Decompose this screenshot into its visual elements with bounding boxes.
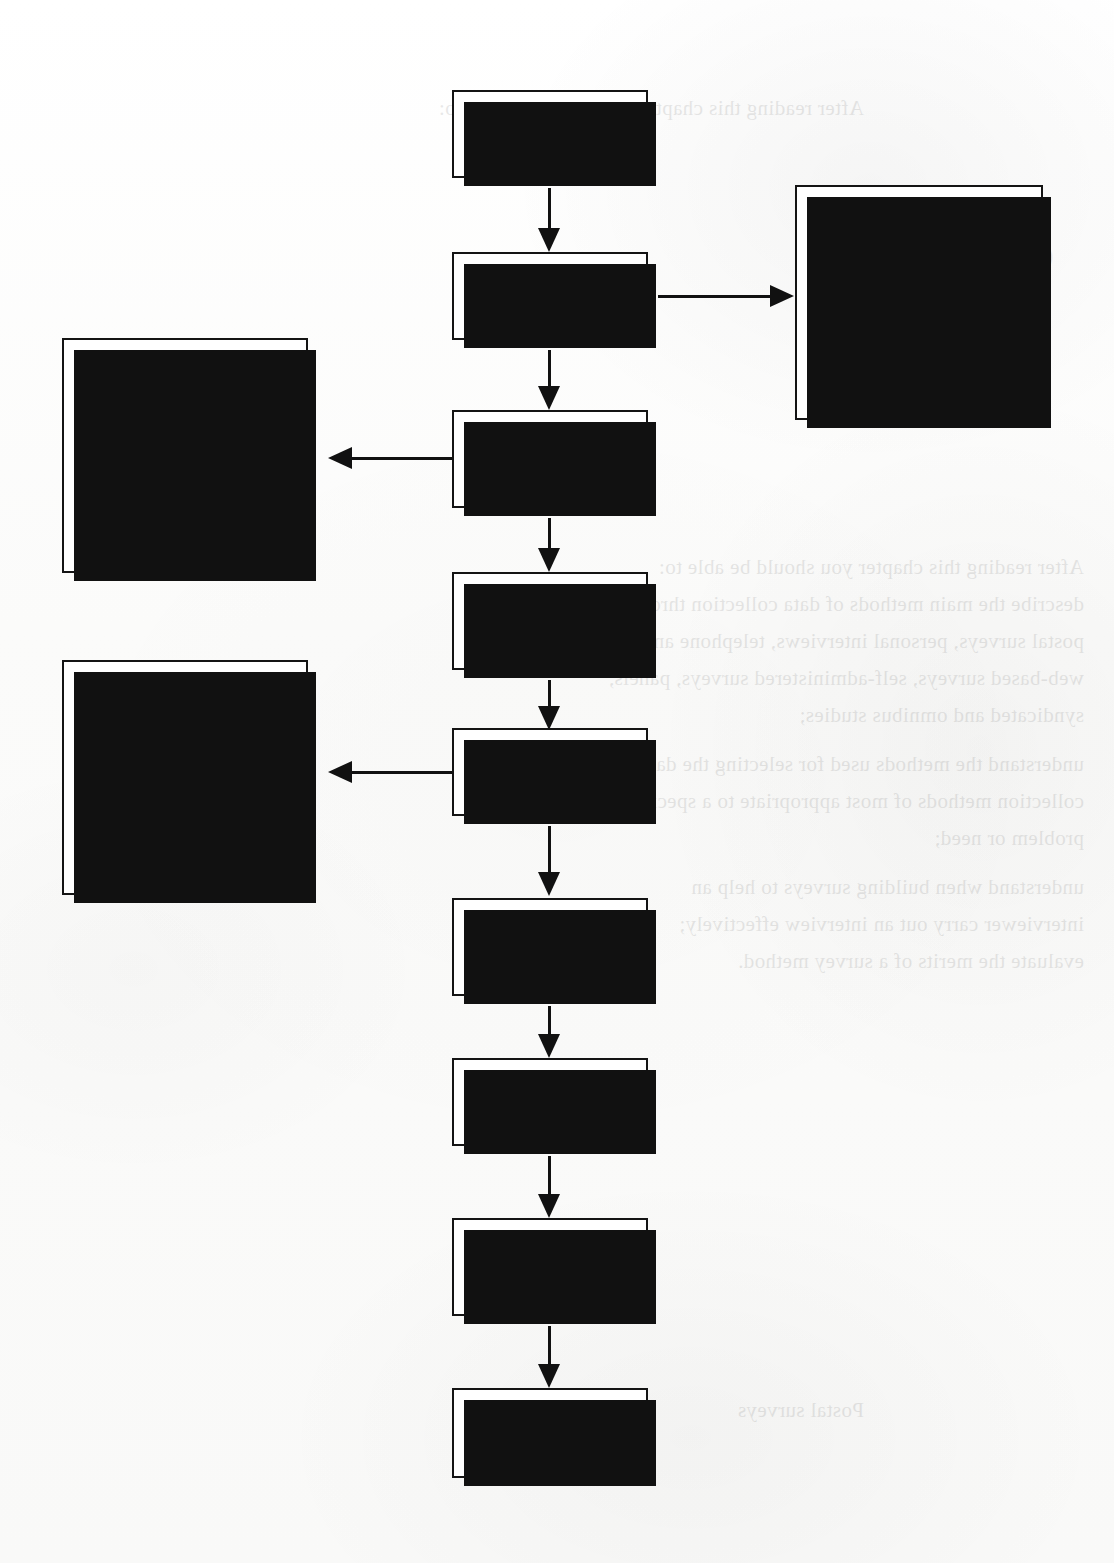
arrowhead-down-omnibus-to-interactive: [538, 1194, 560, 1218]
panel-detail-topic-3-line-1: Custom study: [121, 831, 249, 858]
postal-detail-topic-1-line-2: limitations: [843, 222, 995, 249]
arrowhead-right-postal-surveys-to-details: [770, 285, 794, 307]
postal-detail-topic-1-line-1: Advantages and: [843, 195, 995, 222]
panel-detail-topic-3-line-2: panel: [121, 858, 249, 885]
arrowhead-left-personal-interviews-to-details: [328, 447, 352, 469]
node-personal-interviews-line-1: Personal: [509, 432, 592, 459]
connector-omnibus-to-interactive: [548, 1156, 551, 1198]
postal-detail-topic-3-line-1: Making postal surveys: [815, 356, 1023, 383]
arrowhead-down-self-administered-to-panels: [538, 706, 560, 730]
node-panels[interactable]: Panels: [452, 728, 648, 816]
postal-detail-topic-3: Making postal surveys more efficient: [815, 356, 1023, 411]
node-personal-interviews[interactable]: Personal interviews: [452, 410, 648, 508]
node-self-administered-line-1: Self-administered: [468, 594, 631, 621]
node-panel-details[interactable]: Major types of panel Longitudinal analys…: [62, 660, 308, 895]
interview-detail-topic-2: Interviewing in shopping precincts: [97, 428, 272, 483]
arrowhead-down-introduction-to-postal-surveys: [538, 228, 560, 252]
node-omnibus-studies[interactable]: Omnibus studies: [452, 1058, 648, 1146]
panel-detail-topic-1-line-1: Major types of: [119, 670, 251, 697]
node-syndicated-line-1: Syndicated: [498, 920, 602, 947]
postal-detail-topic-2: When postal surveys are appropriate: [822, 275, 1017, 330]
arrowhead-down-postal-surveys-to-personal-interviews: [538, 386, 560, 410]
node-summary[interactable]: Summary: [452, 1388, 648, 1478]
connector-interactive-to-summary: [548, 1326, 551, 1368]
node-introduction[interactable]: Introduction: [452, 90, 648, 178]
interview-detail-topic-1-line-2: interviewer: [113, 375, 257, 402]
connector-panels-to-syndicated: [548, 826, 551, 876]
node-postal-surveys-line-1: Postal surveys: [482, 282, 619, 309]
connector-panels-to-details: [352, 771, 452, 774]
node-self-administered-line-2: surveys: [514, 621, 586, 648]
interview-detail-topic-1-line-1: Influence of the: [113, 348, 257, 375]
postal-detail-topic-2-line-1: When postal surveys: [822, 275, 1017, 302]
node-panels-line-1: Panels: [518, 758, 582, 785]
panel-detail-topic-1-line-2: panel: [119, 697, 251, 724]
node-interactive-research[interactable]: Interactive research: [452, 1218, 648, 1316]
node-interactive-line-2: research: [509, 1267, 591, 1294]
node-syndicated-line-2: research services: [468, 947, 633, 974]
node-interactive-line-1: Interactive: [502, 1240, 599, 1267]
flowchart-canvas: Introduction Postal surveys Personal int…: [0, 0, 1114, 1563]
arrowhead-down-panels-to-syndicated: [538, 872, 560, 896]
arrowhead-left-panels-to-details: [328, 761, 352, 783]
node-postal-survey-details[interactable]: Advantages and limitations When postal s…: [795, 185, 1043, 420]
node-interview-details[interactable]: Influence of the interviewer Interviewin…: [62, 338, 308, 573]
connector-introduction-to-postal-surveys: [548, 188, 551, 230]
connector-postal-surveys-to-details: [658, 295, 772, 298]
interview-detail-topic-3: Cost of personal interviews: [109, 509, 262, 564]
node-self-administered-surveys[interactable]: Self-administered surveys: [452, 572, 648, 670]
postal-detail-topic-1: Advantages and limitations: [843, 195, 995, 250]
node-postal-surveys[interactable]: Postal surveys: [452, 252, 648, 340]
connector-personal-interviews-to-details: [352, 457, 452, 460]
arrowhead-down-syndicated-to-omnibus: [538, 1034, 560, 1058]
panel-detail-topic-2: Longitudinal analysis: [128, 750, 241, 805]
node-syndicated-research-services[interactable]: Syndicated research services: [452, 898, 648, 996]
panel-detail-topic-1: Major types of panel: [119, 670, 251, 725]
postal-detail-topic-2-line-2: are appropriate: [822, 303, 1017, 330]
node-summary-line-1: Summary: [505, 1419, 595, 1446]
arrowhead-down-interactive-to-summary: [538, 1364, 560, 1388]
interview-detail-topic-2-line-1: Interviewing in: [97, 428, 272, 455]
arrowhead-down-personal-interviews-to-self-administered: [538, 548, 560, 572]
panel-detail-topic-2-line-1: Longitudinal: [128, 750, 241, 777]
node-personal-interviews-line-2: interviews: [503, 459, 596, 486]
panel-detail-topic-2-line-2: analysis: [128, 778, 241, 805]
interview-detail-topic-3-line-1: Cost of personal: [109, 509, 262, 536]
node-omnibus-line-1: Omnibus studies: [472, 1088, 628, 1115]
interview-detail-topic-2-line-2: shopping precincts: [97, 456, 272, 483]
postal-detail-topic-3-line-2: more efficient: [815, 383, 1023, 410]
interview-detail-topic-3-line-2: interviews: [109, 536, 262, 563]
interview-detail-topic-1: Influence of the interviewer: [113, 348, 257, 403]
node-introduction-line-1: Introduction: [495, 120, 605, 147]
connector-postal-surveys-to-personal-interviews: [548, 350, 551, 390]
panel-detail-topic-3: Custom study panel: [121, 831, 249, 886]
